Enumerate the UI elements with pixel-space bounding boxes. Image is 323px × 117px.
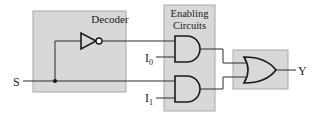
label-i0: I0 [145,51,153,67]
label-y: Y [298,64,307,78]
label-s: S [13,75,20,89]
mux-diagram: Decoder Enabling Circuits S I0 I1 Y [0,0,323,117]
and-gate-0-icon [175,36,200,62]
and-gate-1-icon [175,76,200,102]
junction-dot [53,79,57,83]
label-i1: I1 [145,91,153,107]
not-bubble-icon [96,38,102,44]
decoder-label: Decoder [91,13,129,25]
enabling-label-line2: Circuits [173,20,206,31]
enabling-label-line1: Enabling [171,8,210,19]
